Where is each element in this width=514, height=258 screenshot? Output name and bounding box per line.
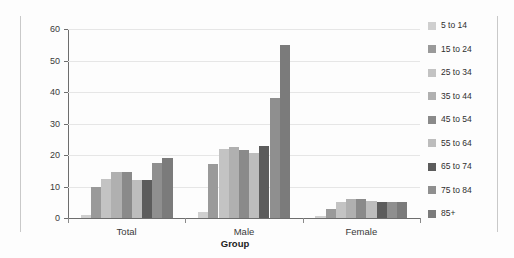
legend-label: 75 to 84 [441,186,472,195]
bar [366,201,376,218]
gridline [68,61,420,62]
x-group-separator-tick [185,218,186,223]
bar [346,199,356,218]
bar [259,146,269,218]
bar [152,163,162,218]
bar [315,216,325,218]
y-tick-label: 30 [38,120,60,129]
bar [336,202,346,218]
legend-item[interactable]: 5 to 14 [428,14,494,38]
legend-label: 45 to 54 [441,115,472,124]
legend-item[interactable]: 85+ [428,202,494,226]
bar [249,153,259,218]
x-axis-end-tick [420,218,421,223]
legend-label: 15 to 24 [441,45,472,54]
bar [162,158,172,218]
legend-swatch-icon [428,139,436,147]
legend-item[interactable]: 65 to 74 [428,155,494,179]
gridline [68,124,420,125]
plot-area [68,29,420,218]
x-group-label-female: Female [316,226,406,237]
bar [229,147,239,218]
legend-label: 35 to 44 [441,92,472,101]
x-axis-line [68,218,420,219]
legend-item[interactable]: 45 to 54 [428,108,494,132]
bar [111,172,121,218]
bar [122,172,132,218]
legend-label: 25 to 34 [441,68,472,77]
chart-figure: Rate per 100,000 0102030405060 TotalMale… [0,0,514,258]
legend-item[interactable]: 35 to 44 [428,85,494,109]
frame-rule-left [20,16,21,232]
legend-label: 5 to 14 [441,21,467,30]
gridline [68,29,420,30]
legend-label: 65 to 74 [441,162,472,171]
legend-swatch-icon [428,186,436,194]
x-axis-end-tick [68,218,69,223]
bar [81,215,91,218]
legend-swatch-icon [428,163,436,171]
y-tick-label: 0 [38,214,60,223]
bar [356,199,366,218]
x-group-label-male: Male [199,226,289,237]
y-tick-label: 60 [38,25,60,34]
legend-item[interactable]: 25 to 34 [428,61,494,85]
x-group-separator-tick [303,218,304,223]
bar [198,212,208,218]
bar [326,209,336,218]
y-tick-label: 40 [38,88,60,97]
bar [387,202,397,218]
x-axis-title: Group [0,238,470,249]
y-tick-label: 50 [38,57,60,66]
bar [377,202,387,218]
legend-label: 85+ [441,209,455,218]
legend-swatch-icon [428,69,436,77]
frame-rule-right [497,16,498,232]
legend-item[interactable]: 55 to 64 [428,132,494,156]
bar [101,179,111,218]
bar [208,164,218,218]
bar [397,202,407,218]
legend-item[interactable]: 15 to 24 [428,38,494,62]
bar [91,187,101,219]
bar [280,45,290,218]
legend-swatch-icon [428,116,436,124]
legend-swatch-icon [428,210,436,218]
bar [219,149,229,218]
bar [142,180,152,218]
y-tick-label: 10 [38,183,60,192]
legend-swatch-icon [428,45,436,53]
x-group-label-total: Total [82,226,172,237]
bar [270,98,280,218]
gridline [68,92,420,93]
legend: 5 to 1415 to 2425 to 3435 to 4445 to 545… [428,14,494,226]
bar [239,150,249,218]
legend-swatch-icon [428,92,436,100]
legend-label: 55 to 64 [441,139,472,148]
bar [132,180,142,218]
legend-swatch-icon [428,22,436,30]
y-tick-label: 20 [38,151,60,160]
legend-item[interactable]: 75 to 84 [428,179,494,203]
